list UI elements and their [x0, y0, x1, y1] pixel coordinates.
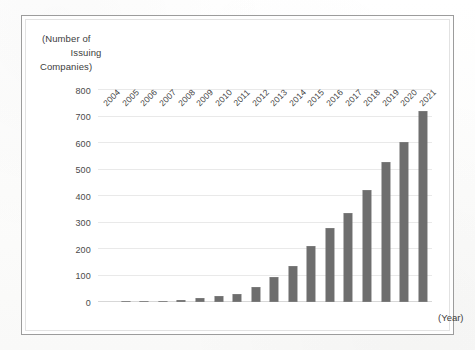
- bar-slot: [209, 90, 228, 302]
- y-axis-title-line-2: Issuing: [40, 46, 160, 60]
- bar: [233, 294, 242, 302]
- bar: [196, 298, 205, 302]
- y-axis-title-line-3: Companies): [40, 60, 160, 74]
- bar: [381, 162, 390, 302]
- bar-slot: [191, 90, 210, 302]
- bar: [158, 301, 167, 302]
- bar-slot: [302, 90, 321, 302]
- bar-slot: [154, 90, 173, 302]
- bar: [214, 296, 223, 302]
- bar-slot: [413, 90, 432, 302]
- bar: [121, 301, 130, 302]
- bar-slot: [135, 90, 154, 302]
- plot-area: 0100200300400500600700800 20042005200620…: [98, 90, 432, 302]
- y-axis-tick-label: 800: [75, 86, 91, 96]
- y-axis-tick-label: 300: [75, 218, 91, 228]
- y-axis-tick-label: 700: [75, 112, 91, 122]
- y-axis-tick-label: 100: [75, 271, 91, 281]
- bar: [288, 266, 297, 302]
- bar: [140, 301, 149, 302]
- x-axis-title: (Year): [438, 312, 464, 323]
- bar-slot: [228, 90, 247, 302]
- bar-slot: [98, 90, 117, 302]
- y-axis-tick-label: 600: [75, 139, 91, 149]
- bar: [251, 287, 260, 302]
- y-axis-tick-label: 200: [75, 245, 91, 255]
- chart-figure-inner-border: (Number of Issuing Companies) 0100200300…: [25, 19, 450, 331]
- bar-slot: [117, 90, 136, 302]
- y-axis-title-line-1: (Number of: [40, 32, 160, 46]
- bar: [270, 277, 279, 302]
- bar: [418, 111, 427, 302]
- y-axis-tick-label: 500: [75, 165, 91, 175]
- bar-slot: [339, 90, 358, 302]
- bar-slot: [246, 90, 265, 302]
- bar-slot: [321, 90, 340, 302]
- bar: [344, 213, 353, 302]
- y-axis-title: (Number of Issuing Companies): [40, 32, 160, 74]
- bar-slot: [265, 90, 284, 302]
- bar-slot: [284, 90, 303, 302]
- y-axis-tick-label: 0: [86, 298, 91, 308]
- bar-slot: [395, 90, 414, 302]
- bar-slot: [358, 90, 377, 302]
- bar-series: [98, 90, 432, 302]
- bar: [400, 142, 409, 302]
- y-axis-tick-label: 400: [75, 192, 91, 202]
- bar: [363, 190, 372, 302]
- bar-slot: [376, 90, 395, 302]
- bar: [177, 300, 186, 302]
- chart-figure-frame: (Number of Issuing Companies) 0100200300…: [21, 15, 454, 335]
- bar-slot: [172, 90, 191, 302]
- bar: [307, 246, 316, 302]
- scanned-page: (Number of Issuing Companies) 0100200300…: [0, 0, 475, 350]
- bar: [325, 228, 334, 302]
